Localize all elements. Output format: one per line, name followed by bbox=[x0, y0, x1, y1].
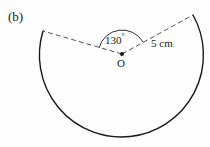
center-point-dot bbox=[120, 52, 124, 56]
angle-value-label: 130° bbox=[105, 33, 125, 46]
center-point-label: O bbox=[117, 58, 125, 69]
geometry-figure-panel: (b) 130° O 5 cm bbox=[0, 0, 210, 147]
radius-measure-label: 5 cm bbox=[151, 38, 173, 49]
degree-symbol: ° bbox=[122, 32, 125, 41]
angle-number: 130 bbox=[105, 34, 122, 46]
sector-diagram-svg bbox=[0, 0, 210, 147]
part-label: (b) bbox=[8, 10, 23, 23]
